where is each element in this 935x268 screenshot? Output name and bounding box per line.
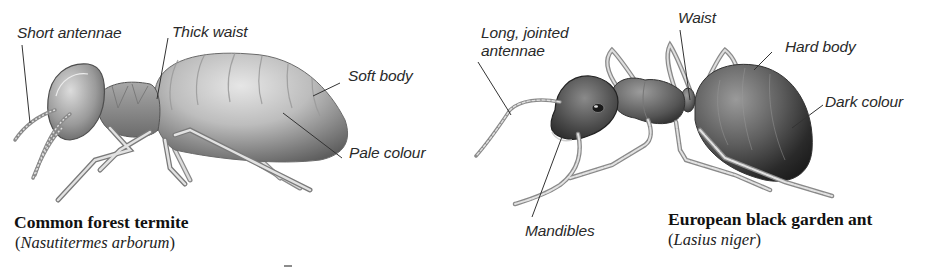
ant-illustration: [476, 45, 832, 204]
termite-illustration: [15, 53, 348, 200]
paren-close: ): [169, 233, 175, 252]
termite-scientific-name-text: Nasutitermes arborum: [21, 233, 170, 252]
termite-abdomen: [154, 53, 348, 162]
ant-scientific-name: (Lasius niger): [668, 230, 761, 250]
label-pale-colour: Pale colour: [349, 144, 425, 162]
label-long-jointed-antennae-line2: antennae: [481, 42, 545, 60]
termite-ant-comparison-diagram: Short antennae Thick waist Soft body Pal…: [0, 0, 935, 268]
label-waist: Waist: [678, 9, 716, 27]
label-long-jointed-antennae-line1: Long, jointed: [481, 24, 568, 42]
ant-gaster: [695, 64, 812, 181]
termite-antennae: [15, 110, 70, 178]
label-short-antennae: Short antennae: [17, 24, 122, 42]
paren-close: ): [756, 230, 762, 249]
label-hard-body: Hard body: [785, 38, 856, 56]
ant-scientific-name-text: Lasius niger: [674, 230, 756, 249]
termite-scientific-name: (Nasutitermes arborum): [15, 233, 175, 253]
ant-common-name: European black garden ant: [668, 209, 872, 229]
label-thick-waist: Thick waist: [172, 23, 248, 41]
ant-head: [551, 76, 618, 139]
label-soft-body: Soft body: [348, 67, 413, 85]
ant-eye: [592, 104, 604, 113]
ant-antenna: [476, 100, 560, 156]
label-dark-colour: Dark colour: [825, 93, 903, 111]
termite-common-name: Common forest termite: [14, 212, 189, 232]
termite-thorax: [97, 82, 160, 137]
label-mandibles: Mandibles: [525, 222, 595, 240]
